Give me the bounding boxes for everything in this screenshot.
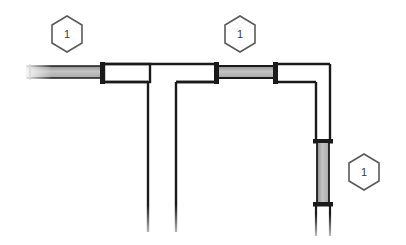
left-cut-end-fade-mask (22, 60, 52, 84)
riser-gasket-spool (317, 143, 329, 203)
bottom-cut-fade-mask (308, 214, 338, 245)
riser-flange-plate-bottom (313, 202, 333, 207)
header-segment-left-body (104, 64, 150, 82)
riser-flange-plate-top (313, 139, 333, 144)
balloon-right-label: 1 (361, 166, 367, 178)
branch-fade-mask (140, 205, 186, 245)
center-gasket-fill (219, 66, 274, 78)
center-flange-plate-left (214, 62, 219, 84)
center-gasket-spool (219, 66, 274, 78)
riser-gasket-fill (317, 143, 329, 203)
center-flange-plate-right (273, 62, 278, 84)
balloon-right[interactable]: 1 (349, 154, 379, 190)
left-flange-plate (100, 62, 105, 84)
balloon-center-label: 1 (237, 28, 243, 40)
header-segment-left (104, 64, 150, 82)
balloon-left-label: 1 (64, 28, 70, 40)
balloon-center[interactable]: 1 (225, 16, 255, 52)
balloon-left[interactable]: 1 (52, 16, 82, 52)
piping-drawing-canvas: 1 1 1 (0, 0, 406, 245)
